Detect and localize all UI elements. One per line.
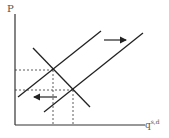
supply-demand-diagram xyxy=(0,0,169,138)
x-axis-label-superscript: s,d xyxy=(151,118,160,125)
shift-arrows xyxy=(34,40,126,97)
supply-curve-shifted xyxy=(44,33,143,112)
supply-curve-original xyxy=(18,31,101,97)
axes xyxy=(15,14,145,125)
y-axis-label: P xyxy=(7,3,14,14)
curves xyxy=(18,31,143,112)
x-axis-label: qs,d xyxy=(145,118,160,130)
